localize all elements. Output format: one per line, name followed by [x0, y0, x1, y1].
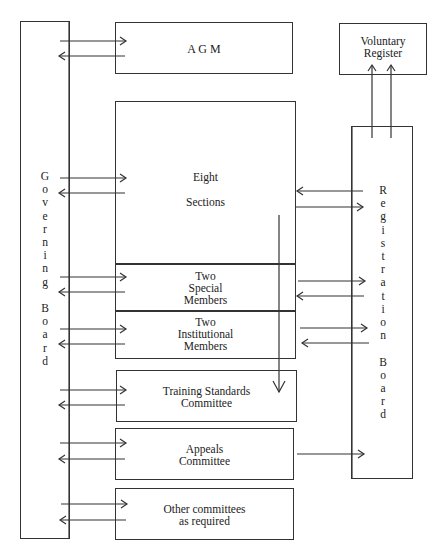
institutional-members-label: Two Institutional Members: [115, 316, 296, 352]
governing-board-label: G o v e r n i n g B o a r d: [38, 170, 52, 368]
training-standards-label: Training Standards Committee: [116, 385, 297, 409]
agm-label: A G M: [115, 43, 293, 55]
appeals-committee-label: Appeals Committee: [115, 443, 294, 467]
registration-board-label: R e g i s t r a t i o n B o a r d: [376, 184, 390, 422]
other-committees-label: Other committees as required: [115, 503, 294, 527]
eight-sections-box: [115, 101, 296, 265]
eight-sections-label-line1: Eight: [115, 171, 296, 183]
voluntary-register-label: Voluntary Register: [339, 35, 427, 59]
eight-sections-label-line2: Sections: [115, 196, 296, 208]
special-members-label: Two Special Members: [115, 270, 296, 306]
